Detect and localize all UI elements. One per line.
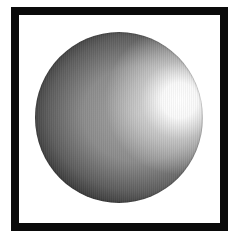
shaded-sphere bbox=[35, 32, 203, 203]
